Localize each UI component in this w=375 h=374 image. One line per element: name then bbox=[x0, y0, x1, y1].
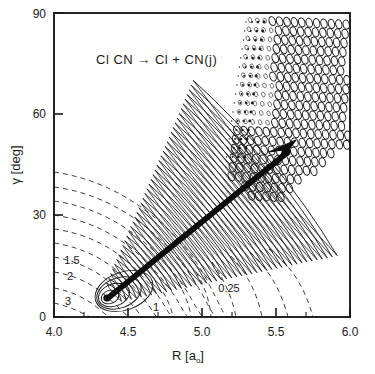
contour-label-15: 1.5 bbox=[64, 254, 79, 266]
y-tick-label: 30 bbox=[33, 208, 47, 222]
contour-label-2: 2 bbox=[67, 270, 73, 282]
x-axis-title: R [ao] bbox=[172, 348, 204, 365]
y-tick-label: 0 bbox=[39, 310, 46, 324]
y-tick-labels: 0 30 60 90 bbox=[33, 7, 47, 324]
x-tick-label: 4.0 bbox=[46, 325, 63, 339]
y-axis-ticks bbox=[54, 13, 63, 317]
y-tick-label: 90 bbox=[33, 7, 47, 21]
x-tick-label: 5.5 bbox=[268, 325, 285, 339]
x-tick-label: 5.0 bbox=[194, 325, 211, 339]
svg-text:R [ao]: R [ao] bbox=[172, 348, 204, 365]
x-tick-labels: 4.0 4.5 5.0 5.5 6.0 bbox=[46, 325, 359, 339]
plot-svg: 4.0 4.5 5.0 5.5 6.0 0 30 60 90 R [ao] γ … bbox=[0, 0, 375, 374]
y-tick-label: 60 bbox=[33, 107, 47, 121]
contour-label-1: 1 bbox=[153, 301, 159, 313]
x-tick-label: 4.5 bbox=[120, 325, 137, 339]
reaction-label: Cl CN → Cl + CN(j) bbox=[96, 52, 217, 67]
contour-label-3: 3 bbox=[65, 295, 71, 307]
y-axis-title: γ [deg] bbox=[8, 145, 23, 184]
x-axis-title-main: R [a bbox=[172, 348, 197, 363]
x-tick-label: 6.0 bbox=[342, 325, 359, 339]
x-axis-title-close: ] bbox=[200, 348, 204, 363]
contour-plot-figure: 4.0 4.5 5.0 5.5 6.0 0 30 60 90 R [ao] γ … bbox=[0, 0, 375, 374]
contour-label-025: 0.25 bbox=[218, 282, 239, 294]
